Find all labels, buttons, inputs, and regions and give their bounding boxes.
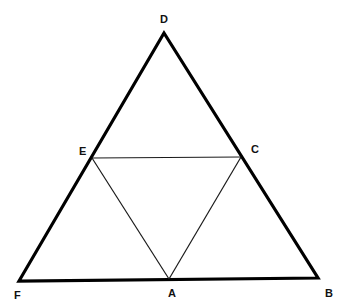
- triangle-diagram: D E C F A B: [0, 0, 345, 308]
- vertex-label-e: E: [79, 145, 86, 157]
- segment-ec: [92, 157, 241, 158]
- vertex-label-a: A: [168, 287, 176, 299]
- vertex-label-d: D: [160, 13, 168, 25]
- segment-ca: [169, 157, 241, 279]
- segment-ea: [92, 158, 169, 279]
- vertex-label-c: C: [251, 143, 259, 155]
- vertex-label-b: B: [325, 287, 333, 299]
- vertex-label-f: F: [14, 289, 21, 301]
